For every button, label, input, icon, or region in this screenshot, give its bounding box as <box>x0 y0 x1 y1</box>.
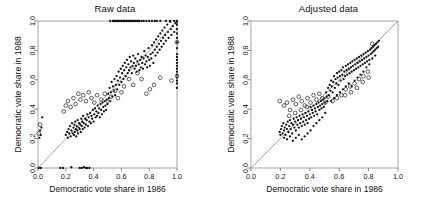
series-open-seat <box>278 42 374 118</box>
data-point-solid <box>176 21 178 23</box>
data-point-solid <box>298 115 300 117</box>
data-point-solid <box>38 137 40 139</box>
data-point-solid <box>304 112 306 114</box>
data-point-solid <box>41 116 43 118</box>
data-point-open <box>62 110 66 114</box>
data-point-solid <box>77 132 79 134</box>
data-point-solid <box>280 128 282 130</box>
data-point-solid <box>337 84 339 86</box>
data-point-solid <box>176 53 178 55</box>
data-point-solid <box>365 66 367 68</box>
data-point-solid <box>162 37 164 39</box>
data-point-solid <box>312 112 314 114</box>
data-point-solid <box>304 135 306 137</box>
data-point-open <box>287 114 291 118</box>
data-point-solid <box>312 104 314 106</box>
data-point-solid <box>176 28 178 30</box>
data-point-solid <box>333 75 335 77</box>
data-point-solid <box>131 65 133 67</box>
data-point-solid <box>135 65 137 67</box>
x-tick-label: 0.4 <box>305 172 315 181</box>
data-point-solid <box>107 93 109 95</box>
data-point-solid <box>137 53 139 55</box>
data-point-open <box>92 101 96 105</box>
data-point-solid <box>287 121 289 123</box>
data-point-solid <box>160 40 162 42</box>
data-point-solid <box>151 20 153 22</box>
data-point-solid <box>312 125 314 127</box>
data-point-solid <box>146 66 148 68</box>
data-point-solid <box>176 79 178 81</box>
data-point-solid <box>131 72 133 74</box>
data-point-solid <box>127 63 129 65</box>
data-point-solid <box>86 167 88 169</box>
data-point-solid <box>73 134 75 136</box>
data-point-solid <box>119 76 121 78</box>
data-point-solid <box>100 109 102 111</box>
data-point-open <box>64 104 68 108</box>
data-point-solid <box>378 40 380 42</box>
panel-adjusted-data: Adjusted data 0.00.20.40.60.81.00.00.20.… <box>212 0 425 207</box>
data-point-open <box>288 108 292 112</box>
data-point-solid <box>163 43 165 45</box>
data-point-solid <box>152 62 154 64</box>
data-point-solid <box>314 107 316 109</box>
data-point-solid <box>97 104 99 106</box>
data-point-solid <box>357 66 359 68</box>
data-point-solid <box>126 59 128 61</box>
data-point-open <box>309 101 313 105</box>
x-tick-label: 0.8 <box>364 172 374 181</box>
x-axis-label: Democratic vote share in 1986 <box>266 184 383 194</box>
data-point-solid <box>122 65 124 67</box>
y-tick-label: 1.0 <box>241 16 250 26</box>
x-tick-label: 0.6 <box>334 172 344 181</box>
data-point-solid <box>354 63 356 65</box>
data-point-open <box>103 92 107 96</box>
y-tick-label: 0.6 <box>241 75 250 85</box>
data-point-solid <box>164 34 166 36</box>
data-point-solid <box>75 135 77 137</box>
data-point-solid <box>301 125 303 127</box>
data-point-solid <box>86 119 88 121</box>
data-point-solid <box>169 20 171 22</box>
data-point-solid <box>353 59 355 61</box>
data-point-solid <box>149 65 151 67</box>
data-point-open <box>120 90 124 94</box>
data-point-solid <box>292 123 294 125</box>
data-point-solid <box>96 115 98 117</box>
data-point-solid <box>289 119 291 121</box>
data-point-solid <box>362 71 364 73</box>
data-point-solid <box>321 103 323 105</box>
data-point-solid <box>286 138 288 140</box>
data-point-solid <box>129 66 131 68</box>
data-point-solid <box>66 131 68 133</box>
data-point-solid <box>294 121 296 123</box>
data-point-solid <box>283 137 285 139</box>
data-point-solid <box>156 51 158 53</box>
data-point-solid <box>139 59 141 61</box>
data-point-open <box>79 98 83 102</box>
data-point-solid <box>339 75 341 77</box>
data-point-solid <box>306 115 308 117</box>
y-tick-label: 0.0 <box>241 163 250 173</box>
data-point-solid <box>311 109 313 111</box>
data-point-solid <box>147 56 149 58</box>
data-point-solid <box>40 167 42 169</box>
data-point-solid <box>138 20 140 22</box>
data-point-solid <box>306 122 308 124</box>
data-point-open <box>361 80 365 84</box>
data-point-solid <box>150 57 152 59</box>
data-point-solid <box>109 20 111 22</box>
y-tick-label: 0.4 <box>241 104 250 114</box>
data-point-solid <box>94 107 96 109</box>
data-point-solid <box>284 134 286 136</box>
data-point-solid <box>284 126 286 128</box>
data-point-solid <box>67 137 69 139</box>
data-point-solid <box>72 126 74 128</box>
data-point-solid <box>128 69 130 71</box>
data-point-solid <box>152 51 154 53</box>
data-point-solid <box>334 78 336 80</box>
data-point-solid <box>142 57 144 59</box>
data-point-solid <box>347 63 349 65</box>
x-axis-label: Democratic vote share in 1986 <box>49 184 166 194</box>
